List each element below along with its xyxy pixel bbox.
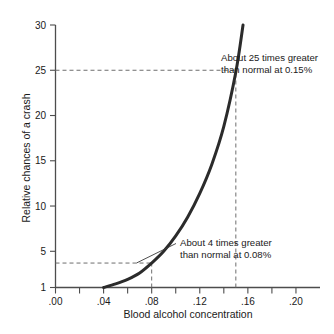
chart-figure: 151015202530 .00.04.08.12.16.20 Blood al…: [0, 0, 334, 334]
chart-background: [0, 0, 334, 334]
y-tick-label: 25: [35, 65, 47, 76]
annotation-4x-line2: than normal at 0.08%: [180, 249, 272, 260]
annotation-4x: About 4 times greater than normal at 0.0…: [180, 237, 273, 260]
x-tick-label: .04: [97, 296, 111, 307]
y-tick-label: 30: [35, 20, 47, 31]
y-tick-label: 10: [35, 201, 47, 212]
x-tick-label: .00: [49, 296, 63, 307]
annotation-25x: About 25 times greater than normal at 0.…: [221, 52, 319, 75]
y-tick-label: 1: [40, 282, 46, 293]
y-tick-label: 5: [40, 246, 46, 257]
annotation-25x-line1: About 25 times greater: [221, 52, 319, 63]
annotation-4x-line1: About 4 times greater: [180, 237, 273, 248]
x-tick-label: .12: [193, 296, 207, 307]
y-tick-label: 20: [35, 110, 47, 121]
annotation-25x-line2: than normal at 0.15%: [221, 64, 313, 75]
chart-canvas: 151015202530 .00.04.08.12.16.20 Blood al…: [0, 0, 334, 334]
x-tick-label: .20: [289, 296, 303, 307]
x-tick-label: .08: [145, 296, 159, 307]
x-tick-label: .16: [241, 296, 255, 307]
y-axis-title: Relative chances of a crash: [20, 93, 32, 222]
y-tick-label: 15: [35, 155, 47, 166]
x-axis-title: Blood alcohol concentration: [123, 308, 252, 320]
